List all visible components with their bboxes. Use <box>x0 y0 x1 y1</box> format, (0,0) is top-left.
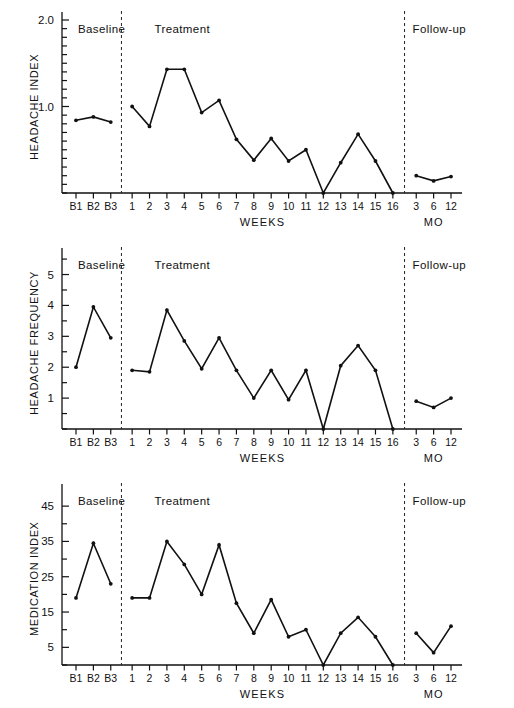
x-tick-label: 3 <box>413 672 419 684</box>
x-tick-label: 8 <box>251 436 257 448</box>
y-tick-label: 35 <box>41 535 54 547</box>
x-tick-label: 16 <box>387 200 399 212</box>
data-point <box>182 67 186 71</box>
phase-label-treatment: Treatment <box>154 495 210 507</box>
data-point <box>449 175 453 179</box>
data-point <box>449 624 453 628</box>
x-tick-label: B1 <box>70 200 83 212</box>
x-tick-label: 6 <box>216 436 222 448</box>
data-point <box>339 161 343 165</box>
data-point <box>321 663 325 667</box>
data-point <box>130 105 134 109</box>
x-tick-label: 10 <box>283 672 295 684</box>
data-point <box>200 111 204 115</box>
x-tick-label: 2 <box>147 672 153 684</box>
x-tick-label: 6 <box>216 672 222 684</box>
y-tick-label: 15 <box>41 606 54 618</box>
data-point <box>109 336 113 340</box>
data-point <box>217 336 221 340</box>
data-point <box>321 427 325 431</box>
x-tick-label: 14 <box>352 436 364 448</box>
x-tick-label: 6 <box>431 436 437 448</box>
series-line <box>416 626 451 652</box>
x-tick-label: B3 <box>104 200 117 212</box>
x-tick-label: 3 <box>164 200 170 212</box>
data-point <box>432 179 436 183</box>
data-point <box>432 651 436 655</box>
x-tick-label: 12 <box>445 672 457 684</box>
phase-label-treatment: Treatment <box>154 259 210 271</box>
phase-label-baseline: Baseline <box>78 23 125 35</box>
chart-panel-medication-index: 515253545B1B2B31234567891011121314151636… <box>0 472 514 708</box>
x-tick-label: 2 <box>147 436 153 448</box>
data-point <box>287 159 291 163</box>
x-tick-label: 12 <box>317 436 329 448</box>
phase-label-treatment: Treatment <box>154 23 210 35</box>
x-tick-label: 5 <box>199 672 205 684</box>
data-point <box>217 543 221 547</box>
x-tick-label: B1 <box>70 672 83 684</box>
data-point <box>74 596 78 600</box>
data-point <box>252 396 256 400</box>
data-point <box>391 427 395 431</box>
data-point <box>165 67 169 71</box>
data-point <box>304 148 308 152</box>
data-point <box>148 370 152 374</box>
data-point <box>235 368 239 372</box>
chart-panel-headache-index: 1.02.0B1B2B3123456789101112131415163612B… <box>0 0 514 236</box>
x-axis-title: WEEKS <box>240 688 286 700</box>
data-point <box>91 115 95 119</box>
x-tick-label: 5 <box>199 436 205 448</box>
series-treatment <box>130 67 395 194</box>
x-tick-label: 14 <box>352 200 364 212</box>
x-tick-label: 13 <box>335 672 347 684</box>
x-tick-label: B2 <box>87 436 100 448</box>
data-point <box>304 628 308 632</box>
x-tick-label: 8 <box>251 672 257 684</box>
data-point <box>182 562 186 566</box>
data-point <box>339 631 343 635</box>
series-baseline <box>74 541 113 600</box>
x-tick-label: 7 <box>234 200 240 212</box>
y-tick-label: 4 <box>48 299 55 311</box>
data-point <box>269 368 273 372</box>
x-tick-label: 13 <box>335 436 347 448</box>
followup-unit-label: MO <box>424 452 444 464</box>
x-tick-label: 1 <box>129 672 135 684</box>
y-tick-label: 1.0 <box>38 101 54 113</box>
series-line <box>76 543 111 598</box>
x-axis-title: WEEKS <box>240 452 286 464</box>
phase-label-baseline: Baseline <box>78 495 125 507</box>
data-point <box>109 120 113 124</box>
y-tick-label: 2.0 <box>38 14 54 26</box>
x-tick-label: 1 <box>129 436 135 448</box>
x-tick-label: 11 <box>300 200 311 212</box>
x-tick-label: 3 <box>164 436 170 448</box>
data-point <box>182 339 186 343</box>
data-point <box>200 592 204 596</box>
y-tick-label: 5 <box>48 641 54 653</box>
series-follow-up <box>414 624 453 654</box>
followup-unit-label: MO <box>424 216 444 228</box>
x-tick-label: 9 <box>268 436 274 448</box>
y-tick-label: 3 <box>48 330 54 342</box>
data-point <box>414 631 418 635</box>
data-point <box>74 118 78 122</box>
data-point <box>130 596 134 600</box>
data-point <box>165 308 169 312</box>
x-tick-label: 9 <box>268 672 274 684</box>
data-point <box>235 601 239 605</box>
x-tick-label: 4 <box>181 436 187 448</box>
x-tick-label: B3 <box>104 672 117 684</box>
x-axis-title: WEEKS <box>240 216 286 228</box>
series-follow-up <box>414 396 453 409</box>
data-point <box>109 582 113 586</box>
phase-label-baseline: Baseline <box>78 259 125 271</box>
x-tick-label: 12 <box>445 200 457 212</box>
data-point <box>374 635 378 639</box>
y-tick-label: 1 <box>48 392 54 404</box>
y-axis-title: HEADACHE FREQUENCY <box>28 270 40 414</box>
data-point <box>91 305 95 309</box>
x-tick-label: 12 <box>317 672 329 684</box>
x-tick-label: 3 <box>413 436 419 448</box>
